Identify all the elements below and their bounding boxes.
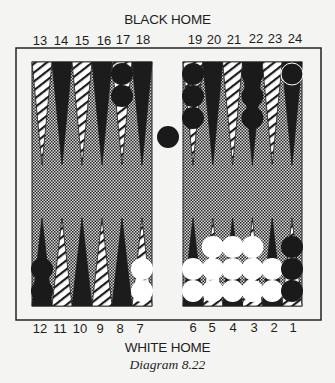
checker-white-point-4 [222, 236, 244, 258]
point-number: 3 [250, 321, 257, 335]
checker-white-point-4 [222, 258, 244, 280]
checker-black-point-19 [182, 107, 204, 129]
checker-black-point-24 [281, 63, 303, 85]
checker-white-point-2 [261, 258, 283, 280]
checker-white-point-6 [182, 258, 204, 280]
checker-white-point-2 [261, 280, 283, 302]
checker-black-point-1 [281, 236, 303, 258]
checker-black-point-12 [31, 280, 53, 302]
point-number: 6 [189, 321, 196, 335]
checker-black-point-1 [281, 258, 303, 280]
checker-black-point-12 [31, 258, 53, 280]
checker-white-point-5 [202, 280, 224, 302]
checker-white-point-5 [202, 236, 224, 258]
checker-white-point-7 [131, 280, 153, 302]
checker-black-point-17 [111, 63, 133, 85]
point-number: 2 [270, 321, 277, 335]
white-home-label: WHITE HOME [0, 340, 335, 355]
diagram-page: BLACK HOME 13 14 15 16 17 18 19 20 21 22… [0, 0, 335, 383]
checker-black-point-22 [241, 63, 263, 85]
point-number: 1 [289, 321, 296, 335]
point-number: 5 [208, 321, 215, 335]
checker-white-point-3 [241, 258, 263, 280]
checker-black-point-19 [182, 63, 204, 85]
checker-white-point-3 [241, 236, 263, 258]
checker-black-point-1 [281, 280, 303, 302]
checker-black-point-19 [182, 85, 204, 107]
checker-black-point-17 [111, 85, 133, 107]
checker-white-point-5 [202, 258, 224, 280]
point-number: 4 [229, 321, 236, 335]
point-number: 10 [73, 322, 87, 336]
point-number: 9 [96, 322, 103, 336]
checker-black-point-22 [241, 107, 263, 129]
checker-white-point-4 [222, 280, 244, 302]
checker-white-point-7 [131, 258, 153, 280]
checker-white-point-3 [241, 280, 263, 302]
checker-black-on-bar [157, 126, 179, 148]
point-number: 8 [116, 322, 123, 336]
backgammon-board [0, 0, 335, 383]
diagram-caption: Diagram 8.22 [0, 357, 335, 373]
point-number: 7 [136, 322, 143, 336]
checker-white-point-6 [182, 280, 204, 302]
point-number: 12 [33, 322, 47, 336]
point-number: 11 [53, 322, 67, 336]
checker-black-point-22 [241, 85, 263, 107]
